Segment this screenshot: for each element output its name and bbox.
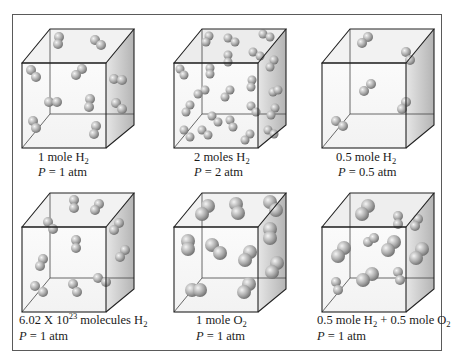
caption-pressure: P = 2 atm [194, 165, 243, 180]
panel-1-mole-h2: 1 mole H2 P = 1 atm [18, 22, 168, 192]
caption-pressure: P = 1 atm [196, 329, 245, 344]
caption-pressure: P = 1 atm [19, 329, 68, 344]
caption-pressure: P = 1 atm [38, 165, 87, 180]
panel-3-half-mole-h2: 0.5 mole H2 P = 0.5 atm [318, 22, 457, 192]
caption-amount: 1 mole H2 [38, 150, 89, 165]
caption-pressure: P = 0.5 atm [338, 165, 396, 180]
caption-amount: 2 moles H2 [194, 150, 250, 165]
gas-cube-6 [318, 186, 457, 316]
panel-2-moles-h2: 2 moles H2 P = 2 atm [170, 22, 320, 192]
gas-cube-5 [170, 186, 320, 316]
gas-cube-3 [318, 22, 457, 152]
panel-4-avogadro-h2: 6.02 X 1023 molecules H2 P = 1 atm [18, 186, 168, 356]
caption-amount: 6.02 X 1023 molecules H2 [19, 313, 147, 328]
panel-5-mole-o2: 1 mole O2 P = 1 atm [170, 186, 320, 356]
caption-amount: 1 mole O2 [196, 313, 247, 328]
gas-cube-1 [18, 22, 168, 152]
gas-cube-4 [18, 186, 168, 316]
caption-amount: 0.5 mole H2 [336, 150, 396, 165]
caption-amount: 0.5 mole H2 + 0.5 mole O2 [317, 313, 451, 328]
gas-cube-2 [170, 22, 320, 152]
caption-pressure: P = 1 atm [317, 329, 366, 344]
panel-6-mixture-h2-o2: 0.5 mole H2 + 0.5 mole O2 P = 1 atm [318, 186, 457, 356]
